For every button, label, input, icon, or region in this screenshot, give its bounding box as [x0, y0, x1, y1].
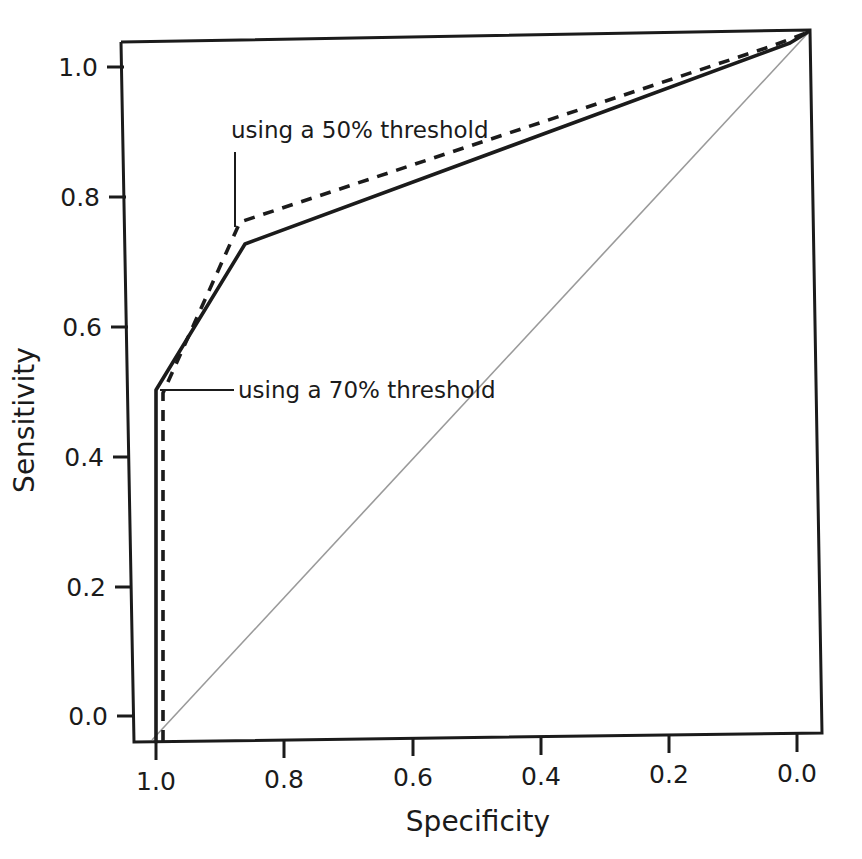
x-tick-label-0.4: 0.4 [521, 762, 561, 791]
y-tick-label-0.0: 0.0 [68, 702, 108, 731]
roc-chart-page: 1.0 0.8 0.6 0.4 0.2 0.0 1.0 0.8 0.6 0.4 … [0, 0, 862, 859]
y-axis-tick-labels: 1.0 0.8 0.6 0.4 0.2 0.0 [58, 53, 108, 731]
y-axis-title: Sensitivity [8, 347, 41, 493]
x-tick-label-0.8: 0.8 [264, 765, 304, 794]
x-tick-label-0.0: 0.0 [777, 759, 817, 788]
x-tick-label-0.2: 0.2 [649, 760, 689, 789]
roc-chart: 1.0 0.8 0.6 0.4 0.2 0.0 1.0 0.8 0.6 0.4 … [0, 0, 862, 859]
x-tick-label-1.0: 1.0 [136, 767, 176, 796]
x-tick-label-0.6: 0.6 [393, 763, 433, 792]
y-tick-label-0.4: 0.4 [64, 443, 104, 472]
y-tick-label-0.6: 0.6 [62, 313, 102, 342]
x-axis-tick-labels: 1.0 0.8 0.6 0.4 0.2 0.0 [136, 759, 817, 796]
y-tick-label-0.8: 0.8 [60, 183, 100, 212]
x-axis-title: Specificity [406, 805, 550, 838]
y-axis-ticks [107, 67, 134, 716]
y-tick-label-1.0: 1.0 [58, 53, 98, 82]
y-tick-label-0.2: 0.2 [66, 573, 106, 602]
annotation-50-threshold-label: using a 50% threshold [231, 117, 489, 143]
annotation-70-threshold-label: using a 70% threshold [238, 377, 496, 403]
annotation-70-threshold: using a 70% threshold [160, 377, 496, 403]
